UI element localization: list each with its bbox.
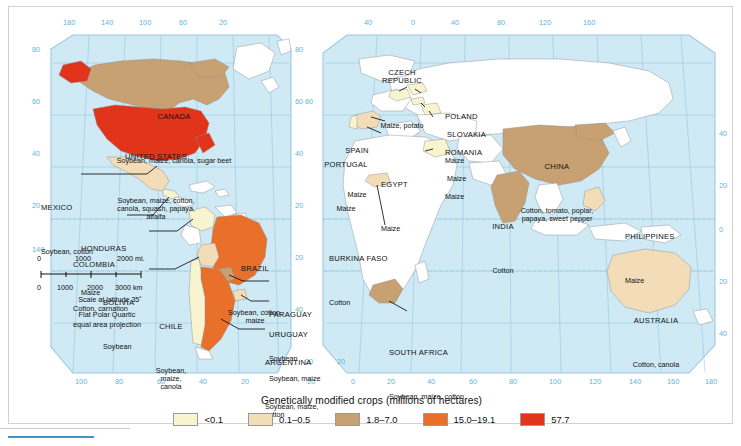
map-plate: 180 140 100 60 20 40 0 40 80 120 160 80 …	[29, 29, 721, 384]
label-india: INDIA Cotton	[475, 187, 531, 311]
tick-inner-4: 20	[295, 253, 303, 262]
tick-left-2: 40	[32, 149, 40, 158]
tick-top-w-3: 60	[179, 18, 187, 27]
tick-top-e-2: 40	[451, 18, 459, 27]
legend-swatch-icon	[520, 413, 545, 426]
tick-right-1: 20	[719, 181, 727, 190]
footer-rule-blue	[8, 436, 94, 438]
legend-swatch-icon	[248, 413, 273, 426]
tick-bot-w-0: 100	[75, 377, 87, 386]
scale-bar: 0 1000 2000 mi. 0 1000 2000 3000 km Scal…	[37, 254, 177, 304]
tick-right-0: 40	[719, 129, 727, 138]
legend-swatch-icon	[173, 413, 198, 426]
legend-label: 1.8–7.0	[366, 414, 397, 425]
tick-bot-e-6: 100	[549, 377, 561, 386]
legend-item: <0.1	[173, 413, 223, 426]
legend-swatch-icon	[423, 413, 448, 426]
legend-item: 1.8–7.0	[335, 413, 397, 426]
tick-bot-w-4: 20	[241, 377, 249, 386]
legend-label: 15.0–19.1	[454, 414, 496, 425]
legend-label: <0.1	[204, 414, 223, 425]
scale-km-labels: 0 1000 2000 3000 km	[37, 283, 177, 294]
scale-caption: Scale at latitude 35˚	[37, 295, 177, 304]
legend-label: 57.7	[551, 414, 569, 425]
tick-top-e-0: 40	[364, 18, 372, 27]
legend-item: 57.7	[520, 413, 569, 426]
label-australia: AUSTRALIA Cotton, canola	[615, 281, 697, 405]
tick-inner-1: 60	[295, 97, 303, 106]
tick-left-0: 80	[32, 45, 40, 54]
tick-top-e-1: 0	[411, 18, 415, 27]
tick-right-4: 40	[719, 329, 727, 338]
tick-right-2: 0	[719, 225, 723, 234]
tick-bot-e-7: 120	[589, 377, 601, 386]
tick-top-e-5: 160	[583, 18, 595, 27]
tick-inner-3: 20	[295, 201, 303, 210]
legend-title: Genetically modified crops (millions of …	[9, 395, 734, 406]
tick-inner-2: 40	[295, 149, 303, 158]
tick-top-e-4: 120	[539, 18, 551, 27]
legend-item: 15.0–19.1	[423, 413, 496, 426]
scale-miles-labels: 0 1000 2000 mi.	[37, 254, 177, 265]
tick-right-3: 20	[719, 277, 727, 286]
legend-swatch-icon	[335, 413, 360, 426]
tick-bot-e-5: 80	[509, 377, 517, 386]
footer-rule-grey	[0, 428, 130, 429]
tick-top-w-2: 100	[139, 18, 151, 27]
projection-line-2: equal area projection	[37, 320, 177, 330]
tick-inner-0: 80	[295, 45, 303, 54]
tick-top-w-0: 180	[63, 18, 75, 27]
legend-label: 0.1–0.5	[279, 414, 310, 425]
tick-bot-e-10: 180	[705, 377, 717, 386]
legend-item: 0.1–0.5	[248, 413, 310, 426]
tick-top-w-4: 20	[219, 18, 227, 27]
tick-top-w-1: 140	[101, 18, 113, 27]
tick-top-e-3: 80	[497, 18, 505, 27]
map-figure: 180 140 100 60 20 40 0 40 80 120 160 80 …	[0, 0, 741, 446]
tick-bot-e-1: 0	[351, 377, 355, 386]
legend-items: <0.1 0.1–0.5 1.8–7.0 15.0–19.1 57.7	[9, 413, 734, 426]
tick-left-3: 20	[32, 201, 40, 210]
tick-bot-w-3: 40	[199, 377, 207, 386]
projection-line-1: Flat Polar Quartic	[37, 310, 177, 320]
label-argentina: ARGENTINA Soybean, maize, cotton	[265, 323, 339, 446]
projection-note: Flat Polar Quartic equal area projection	[37, 310, 177, 330]
map-panel: 180 140 100 60 20 40 0 40 80 120 160 80 …	[8, 6, 733, 424]
scale-ruler	[37, 270, 177, 279]
tick-left-1: 60	[32, 97, 40, 106]
legend: Genetically modified crops (millions of …	[9, 395, 734, 426]
tick-center-left-0: 60	[305, 97, 313, 106]
